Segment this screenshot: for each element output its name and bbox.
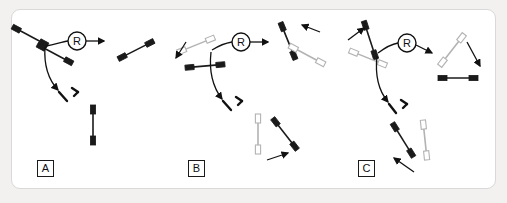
panel-A-input-chromosome-black-lower-right [36, 42, 74, 65]
panel-C-input-chromosome-black-steep [361, 20, 378, 60]
panel-B-arrow-top-output [302, 25, 320, 32]
panel-C-cleavage-marks [389, 100, 407, 113]
panel-B: R [176, 21, 326, 160]
panel-label-c: C [358, 160, 375, 177]
panel-B-arrow-to-bottom-output [210, 52, 222, 99]
panel-C-output-chromosome-black-diagonal [390, 122, 416, 159]
panel-A-output-chromosome-black-diagonal [117, 39, 155, 62]
panel-A-arrow-to-bottom-output [45, 47, 58, 90]
panel-C-arrow-bottom-output [394, 158, 414, 172]
panel-A-node-R: R [68, 32, 86, 50]
panel-B-input-chromosome-black-horizontal [185, 62, 225, 71]
panel-C-output-chromosome-gray-diagonal [438, 33, 467, 68]
panel-B-output-chromosome-gray-vertical [255, 114, 260, 154]
panel-B-output-chromosome-black-steep [278, 21, 298, 60]
panel-label-b: B [188, 160, 205, 177]
panel-B-input-chromosome-gray-diagonal [176, 35, 215, 55]
figure-container: R [0, 0, 507, 203]
panel-A: R [11, 24, 155, 145]
panel-A-output-chromosome-black-vertical [90, 105, 95, 145]
panel-A-branch-line-top [46, 41, 68, 46]
panel-A-node-label: R [73, 35, 81, 47]
panel-C-output-chromosome-gray-vertical [420, 120, 429, 160]
panel-label-a: A [37, 160, 54, 177]
panel-B-branch-line-top [212, 42, 232, 50]
panel-C-branch-line-top [378, 43, 398, 53]
panel-B-arrow-bottom-output [267, 153, 288, 160]
panel-C-arrow-to-top-output [416, 45, 432, 53]
panel-B-node-label: R [237, 36, 245, 48]
panel-C: R [348, 20, 480, 172]
panel-C-node-label: R [403, 37, 411, 49]
panel-B-node-R: R [232, 33, 250, 51]
panel-C-output-chromosome-black-horizontal [438, 75, 478, 80]
panel-B-cleavage-marks [223, 97, 242, 110]
panel-A-cleavage-marks [59, 88, 78, 101]
diagram-canvas: R [0, 0, 507, 203]
panel-C-arrow-top-output [467, 42, 480, 66]
panel-A-input-chromosome-black-upper-left [11, 24, 49, 47]
panel-C-node-R: R [398, 34, 416, 52]
panel-B-output-chromosome-black-diagonal [271, 117, 300, 152]
panel-C-arrow-input-left [348, 28, 364, 40]
